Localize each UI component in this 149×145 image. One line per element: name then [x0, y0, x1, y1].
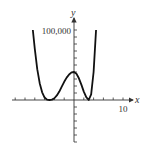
axis-ticks [15, 30, 123, 142]
function-curve [33, 30, 96, 100]
chart-plot: y x 100,000 10 [0, 0, 149, 145]
y-tick-label-100000: 100,000 [42, 26, 72, 36]
y-axis-label: y [70, 7, 76, 18]
x-axis-label: x [134, 94, 140, 105]
x-tick-label-10: 10 [119, 104, 129, 114]
